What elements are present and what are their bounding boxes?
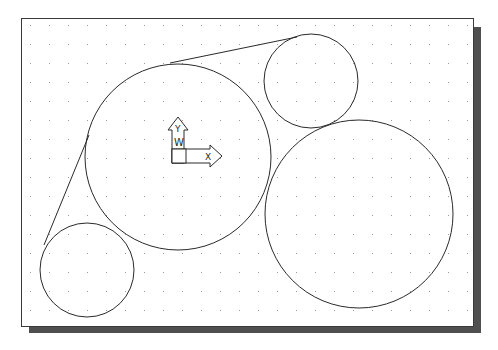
grid-dot xyxy=(30,82,31,83)
grid-dot xyxy=(391,291,392,292)
grid-dot xyxy=(315,196,316,197)
grid-dot xyxy=(277,139,278,140)
grid-dot xyxy=(258,234,259,235)
grid-dot xyxy=(277,253,278,254)
grid-dot xyxy=(391,101,392,102)
grid-dot xyxy=(315,63,316,64)
grid-dot xyxy=(258,253,259,254)
grid-dot xyxy=(201,177,202,178)
grid-dot xyxy=(334,44,335,45)
grid-dot xyxy=(239,253,240,254)
grid-dot xyxy=(353,63,354,64)
grid-dot xyxy=(239,215,240,216)
grid-dot xyxy=(239,291,240,292)
grid-dot xyxy=(448,234,449,235)
cad-canvas[interactable]: Y W X xyxy=(0,0,498,350)
grid-dot xyxy=(277,158,278,159)
grid-dot xyxy=(258,25,259,26)
grid-dot xyxy=(125,215,126,216)
tangent-line-top[interactable] xyxy=(170,37,297,63)
grid-dot xyxy=(315,177,316,178)
grid-dot xyxy=(68,44,69,45)
grid-dot xyxy=(410,177,411,178)
grid-dot xyxy=(163,215,164,216)
grid-dot xyxy=(410,101,411,102)
grid-dot xyxy=(277,25,278,26)
grid-dot xyxy=(258,272,259,273)
tangent-line-left[interactable] xyxy=(44,135,89,245)
grid-dot xyxy=(315,44,316,45)
grid-dot xyxy=(163,139,164,140)
grid-dot xyxy=(106,82,107,83)
grid-dot xyxy=(334,177,335,178)
grid-dot xyxy=(296,44,297,45)
geometry[interactable] xyxy=(40,34,453,317)
grid-dot xyxy=(239,101,240,102)
ucs-origin-box xyxy=(172,149,186,163)
grid-dot xyxy=(467,158,468,159)
grid-dot xyxy=(448,101,449,102)
grid-dot xyxy=(391,158,392,159)
grid-dot xyxy=(30,44,31,45)
grid-dot xyxy=(429,177,430,178)
grid-dot xyxy=(182,291,183,292)
grid-dot xyxy=(277,196,278,197)
grid-dot xyxy=(296,139,297,140)
grid-dot xyxy=(334,291,335,292)
drawing-area[interactable]: Y W X xyxy=(0,0,498,350)
grid-dot xyxy=(296,158,297,159)
grid-dot xyxy=(467,177,468,178)
grid-dot xyxy=(258,196,259,197)
grid-dot xyxy=(201,44,202,45)
grid-dot xyxy=(144,63,145,64)
grid-dot xyxy=(220,82,221,83)
grid-dot xyxy=(220,44,221,45)
grid-dot xyxy=(144,25,145,26)
grid-dot xyxy=(467,82,468,83)
grid-dot xyxy=(467,291,468,292)
grid-dot xyxy=(163,310,164,311)
grid-dot xyxy=(448,272,449,273)
grid-dot xyxy=(49,158,50,159)
grid-dot xyxy=(239,272,240,273)
grid-dot xyxy=(220,196,221,197)
grid-dot xyxy=(296,291,297,292)
grid-dot xyxy=(277,215,278,216)
grid-dot xyxy=(410,44,411,45)
circle-small-bottom-left[interactable] xyxy=(40,223,134,317)
grid-dot xyxy=(163,196,164,197)
circle-large-right[interactable] xyxy=(265,120,453,308)
grid-dot xyxy=(87,63,88,64)
grid-dot xyxy=(467,25,468,26)
grid-dot xyxy=(87,272,88,273)
grid-dot xyxy=(448,120,449,121)
grid-dot xyxy=(182,101,183,102)
grid-dot xyxy=(334,25,335,26)
grid-dot xyxy=(448,177,449,178)
grid-dot xyxy=(315,101,316,102)
grid-dot xyxy=(144,215,145,216)
grid-dot xyxy=(125,63,126,64)
grid-dot xyxy=(391,196,392,197)
grid-dot xyxy=(49,25,50,26)
grid-dot xyxy=(372,177,373,178)
grid-dot xyxy=(391,272,392,273)
grid-dot xyxy=(334,253,335,254)
circle-small-top-right[interactable] xyxy=(264,34,358,128)
grid-dot xyxy=(334,196,335,197)
grid-dot xyxy=(68,177,69,178)
grid-dot xyxy=(448,310,449,311)
grid-dot xyxy=(315,139,316,140)
grid-dot xyxy=(372,196,373,197)
grid-dot xyxy=(125,310,126,311)
grid-dot xyxy=(448,82,449,83)
grid-dot xyxy=(239,120,240,121)
grid-dot xyxy=(429,25,430,26)
grid-dot xyxy=(201,310,202,311)
grid-dot xyxy=(87,215,88,216)
grid-dot xyxy=(125,177,126,178)
grid-dot xyxy=(201,215,202,216)
grid-dot xyxy=(106,196,107,197)
grid-dot xyxy=(334,272,335,273)
grid-dot xyxy=(429,272,430,273)
